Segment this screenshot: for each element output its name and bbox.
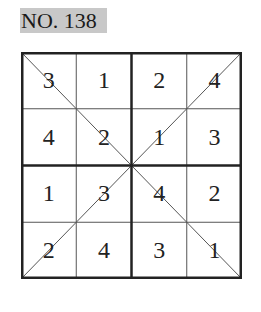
cell-r4c3: 3	[132, 222, 187, 279]
cell-r1c2: 1	[76, 52, 131, 109]
cell-r2c2: 2	[76, 109, 131, 166]
sudoku-grid: 3 1 2 4 4 2 1 3 1 3 4 2 2 4 3 1	[21, 52, 242, 279]
cell-r2c3: 1	[132, 109, 187, 166]
cell-r3c4: 2	[187, 166, 242, 223]
cell-r4c2: 4	[76, 222, 131, 279]
cell-r2c4: 3	[187, 109, 242, 166]
cell-r3c3: 4	[132, 166, 187, 223]
cell-r4c1: 2	[21, 222, 76, 279]
cell-r4c4: 1	[187, 222, 242, 279]
cell-r2c1: 4	[21, 109, 76, 166]
cell-r1c4: 4	[187, 52, 242, 109]
cell-r3c1: 1	[21, 166, 76, 223]
puzzle-number: NO. 138	[20, 8, 107, 33]
cell-r3c2: 3	[76, 166, 131, 223]
cell-r1c1: 3	[21, 52, 76, 109]
cell-r1c3: 2	[132, 52, 187, 109]
